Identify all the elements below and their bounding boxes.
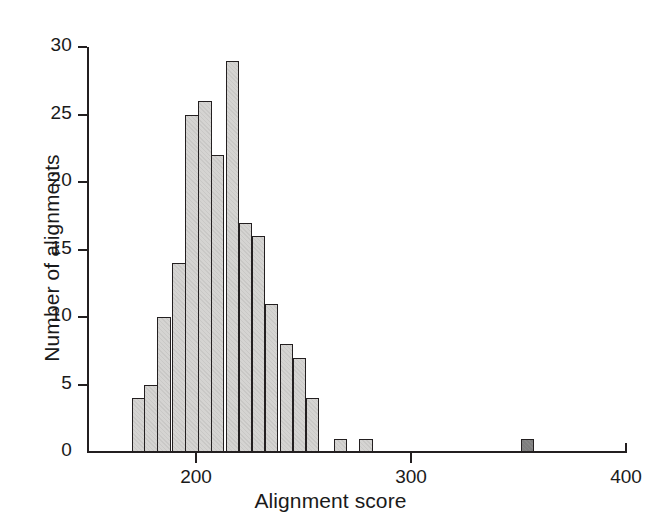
histogram-bar <box>280 344 293 452</box>
x-tick-label: 300 <box>395 466 427 488</box>
plot-area: 051015202530 200300400 Alignment score N… <box>0 0 661 530</box>
y-tick-mark <box>78 316 87 318</box>
histogram-bar <box>185 115 198 453</box>
y-tick-mark <box>78 46 87 48</box>
histogram-bar <box>198 101 211 452</box>
x-tick-mark <box>410 453 412 463</box>
y-tick-mark <box>78 384 87 386</box>
histogram-bar <box>172 263 185 452</box>
x-axis-title: Alignment score <box>0 489 661 513</box>
histogram-bar <box>521 439 534 453</box>
histogram-bar <box>157 317 170 452</box>
y-axis-title: Number of alignments <box>40 58 64 458</box>
y-tick-mark <box>78 181 87 183</box>
histogram-bar <box>359 439 372 453</box>
histogram-bar <box>226 61 239 453</box>
histogram-figure: 051015202530 200300400 Alignment score N… <box>0 0 661 530</box>
histogram-bar <box>211 155 224 452</box>
histogram-bar <box>252 236 265 452</box>
x-tick-mark <box>625 443 627 453</box>
x-tick-label: 400 <box>610 466 642 488</box>
histogram-bar <box>306 398 319 452</box>
x-tick-mark <box>195 453 197 463</box>
histogram-bar <box>334 439 347 453</box>
histogram-bar <box>239 223 252 453</box>
y-tick-label: 30 <box>30 34 72 56</box>
y-tick-mark <box>78 249 87 251</box>
y-tick-mark <box>78 114 87 116</box>
x-tick-label: 200 <box>180 466 212 488</box>
histogram-bar <box>132 398 145 452</box>
histogram-bar <box>144 385 157 453</box>
histogram-bar <box>293 358 306 453</box>
histogram-bar <box>265 304 278 453</box>
y-axis-line <box>87 47 89 453</box>
